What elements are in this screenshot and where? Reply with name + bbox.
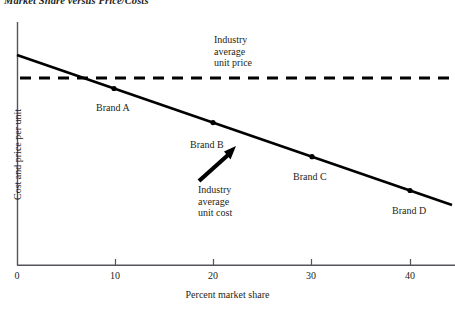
brand-d-label: Brand D <box>392 205 426 216</box>
annotation-line-2: average <box>214 46 252 58</box>
annotation-line-3: unit price <box>214 57 252 69</box>
x-tick-label-0: 0 <box>7 270 27 281</box>
x-axis-title: Percent market share <box>0 289 455 300</box>
x-tick-label-30: 30 <box>301 270 321 281</box>
brand-c-label: Brand C <box>293 171 327 182</box>
x-tick-label-20: 20 <box>203 270 223 281</box>
brand-a-point <box>111 86 116 91</box>
x-tick-label-10: 10 <box>105 270 125 281</box>
brand-b-label: Brand B <box>190 139 224 150</box>
brand-d-point <box>407 188 412 193</box>
arrow-shaft <box>199 155 228 181</box>
x-tick-label-40: 40 <box>400 270 420 281</box>
industry-average-unit-price-annotation: Industry average unit price <box>214 34 252 69</box>
chart-container: Market Share versus Price/Costs <box>0 0 455 317</box>
unit-cost-callout-arrow <box>199 146 236 181</box>
brand-c-point <box>309 154 314 159</box>
industry-average-unit-cost-annotation: Industry average unit cost <box>198 184 232 219</box>
annotation-line-1: Industry <box>214 34 252 46</box>
annotation-line-3: unit cost <box>198 207 232 219</box>
brand-a-label: Brand A <box>96 102 130 113</box>
annotation-line-2: average <box>198 196 232 208</box>
y-axis-title: Cost and price per unit <box>12 109 23 200</box>
annotation-line-1: Industry <box>198 184 232 196</box>
brand-b-point <box>210 120 215 125</box>
x-axis-ticks <box>116 259 411 265</box>
